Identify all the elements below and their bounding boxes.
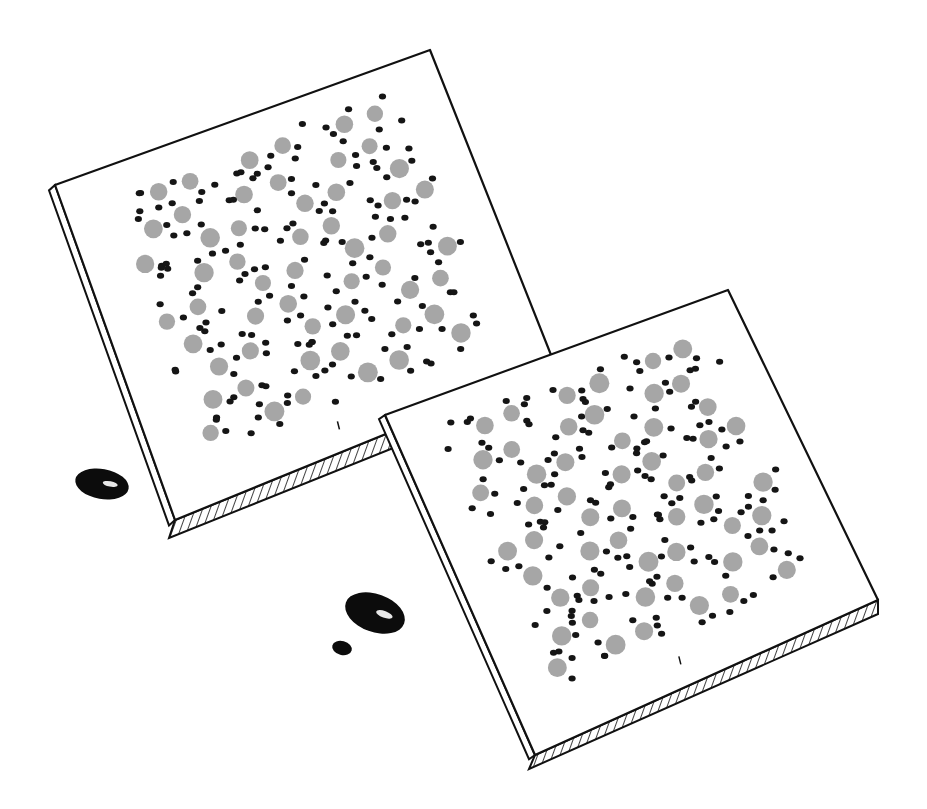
small-atom xyxy=(233,355,240,361)
small-atom xyxy=(366,254,373,260)
small-atom xyxy=(261,226,268,232)
small-atom xyxy=(554,507,561,513)
large-atom xyxy=(753,472,772,491)
large-atom xyxy=(300,351,320,371)
small-atom xyxy=(332,399,339,405)
small-atom xyxy=(540,524,547,530)
small-atom xyxy=(180,315,187,321)
small-atom xyxy=(574,593,581,599)
small-atom xyxy=(383,145,390,151)
small-atom xyxy=(503,398,510,404)
small-atom xyxy=(211,182,218,188)
small-atom xyxy=(548,482,555,488)
small-atom xyxy=(324,273,331,279)
small-atom xyxy=(525,421,532,427)
large-atom xyxy=(498,542,517,561)
small-atom xyxy=(750,592,757,598)
small-atom xyxy=(658,631,665,637)
small-atom xyxy=(667,426,674,432)
small-atom xyxy=(549,387,556,393)
small-atom xyxy=(169,200,176,206)
large-atom xyxy=(242,342,259,359)
small-atom xyxy=(768,528,775,534)
large-atom xyxy=(614,432,631,449)
small-atom xyxy=(578,414,585,420)
large-atom xyxy=(247,307,264,324)
small-atom xyxy=(737,509,744,515)
small-atom xyxy=(623,553,630,559)
small-atom xyxy=(541,482,548,488)
large-atom xyxy=(438,237,457,256)
small-atom xyxy=(262,340,269,346)
large-atom xyxy=(589,373,609,393)
small-atom xyxy=(321,368,328,374)
large-atom xyxy=(635,622,653,640)
small-atom xyxy=(267,153,274,159)
small-atom xyxy=(306,342,313,348)
large-atom xyxy=(330,152,346,168)
small-atom xyxy=(608,444,615,450)
small-atom xyxy=(521,401,528,407)
small-atom xyxy=(665,355,672,361)
large-atom xyxy=(345,238,365,258)
small-atom xyxy=(656,516,663,522)
small-atom xyxy=(607,515,614,521)
large-atom xyxy=(182,173,199,190)
large-atom xyxy=(722,586,739,603)
large-atom xyxy=(279,295,297,313)
large-atom xyxy=(425,305,445,325)
small-atom xyxy=(339,239,346,245)
small-atom xyxy=(523,395,530,401)
small-atom xyxy=(602,470,609,476)
large-atom xyxy=(558,487,576,505)
small-atom xyxy=(170,179,177,185)
small-atom xyxy=(545,555,552,561)
large-atom xyxy=(580,541,599,560)
small-atom xyxy=(568,655,575,661)
large-atom xyxy=(551,588,569,606)
small-atom xyxy=(627,526,634,532)
large-atom xyxy=(613,465,631,483)
small-atom xyxy=(170,232,177,238)
small-atom xyxy=(470,313,477,319)
small-atom xyxy=(603,549,610,555)
small-atom xyxy=(601,653,608,659)
small-atom xyxy=(722,573,729,579)
small-atom xyxy=(255,299,262,305)
small-atom xyxy=(590,598,597,604)
small-atom xyxy=(383,174,390,180)
lattice-illustration xyxy=(0,0,927,809)
small-atom xyxy=(155,205,162,211)
large-atom xyxy=(639,552,659,572)
small-atom xyxy=(551,471,558,477)
small-atom xyxy=(736,438,743,444)
large-atom xyxy=(723,552,742,571)
small-atom xyxy=(643,438,650,444)
small-atom xyxy=(480,476,487,482)
small-atom xyxy=(284,318,291,324)
large-atom xyxy=(229,253,245,269)
small-atom xyxy=(370,159,377,165)
small-atom xyxy=(262,383,269,389)
small-atom xyxy=(419,303,426,309)
small-atom xyxy=(491,491,498,497)
small-atom xyxy=(209,251,216,257)
small-atom xyxy=(230,371,237,377)
small-atom xyxy=(634,467,641,473)
small-atom xyxy=(604,406,611,412)
large-atom xyxy=(184,334,203,353)
small-atom xyxy=(693,355,700,361)
small-atom xyxy=(288,190,295,196)
large-atom xyxy=(379,225,396,242)
small-atom xyxy=(262,264,269,270)
small-atom xyxy=(622,591,629,597)
small-atom xyxy=(316,208,323,214)
large-atom xyxy=(778,561,796,579)
small-atom xyxy=(291,368,298,374)
small-atom xyxy=(552,434,559,440)
small-atom xyxy=(237,242,244,248)
small-atom xyxy=(241,271,248,277)
large-atom xyxy=(503,405,520,422)
small-atom xyxy=(427,249,434,255)
small-atom xyxy=(289,220,296,226)
